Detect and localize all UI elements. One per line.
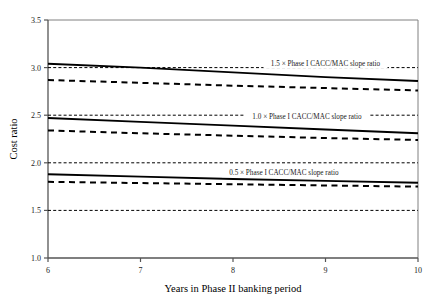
y-tick-label-2: 2.0 [31,159,41,168]
y-tick-label-0: 1.0 [31,254,41,263]
annotation-label-1: 1.0 × Phase I CACC/MAC slope ratio [252,113,362,121]
cost-ratio-chart: 1.01.52.02.53.03.5 678910 1.5 × Phase I … [0,0,432,305]
y-tick-label-5: 3.5 [31,16,41,25]
x-tick-label-4: 10 [414,266,422,275]
y-tick-label-1: 1.5 [31,206,41,215]
x-axis-title: Years in Phase II banking period [165,283,303,294]
x-tick-label-2: 8 [231,266,235,275]
x-tick-label-0: 6 [46,266,50,275]
x-tick-label-1: 7 [139,266,143,275]
chart-background [0,0,432,305]
annotation-label-2: 0.5 × Phase I CACC/MAC slope ratio [229,169,339,177]
y-tick-label-3: 2.5 [31,111,41,120]
chart-canvas: 1.01.52.02.53.03.5 678910 1.5 × Phase I … [0,0,432,305]
x-tick-label-3: 9 [324,266,328,275]
y-axis-title: Cost ratio [8,118,19,159]
y-tick-label-4: 3.0 [31,64,41,73]
annotation-label-0: 1.5 × Phase I CACC/MAC slope ratio [271,60,381,68]
